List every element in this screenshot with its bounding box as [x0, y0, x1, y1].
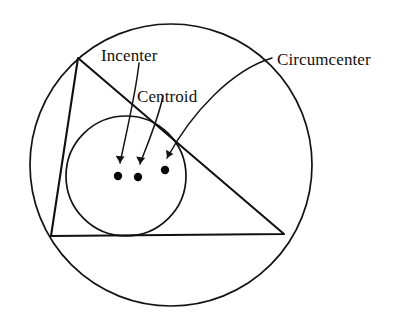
circumcenter-leader-line	[167, 58, 272, 158]
incenter-leader-line	[120, 63, 139, 163]
circumcenter-dot	[161, 166, 169, 174]
figure-canvas	[0, 0, 396, 321]
circumcircle	[30, 24, 312, 306]
centroid-leader-arrowhead	[136, 157, 145, 164]
centroid-leader-line	[140, 96, 163, 164]
triangle-outline	[51, 58, 284, 236]
incenter-dot	[114, 172, 122, 180]
centroid-dot	[134, 173, 142, 181]
centroid-label: Centroid	[137, 88, 197, 105]
circumcenter-label: Circumcenter	[277, 51, 371, 68]
triangle-centers-figure: Incenter Centroid Circumcenter	[0, 0, 396, 321]
incenter-leader-arrowhead	[116, 156, 125, 163]
incenter-label: Incenter	[101, 47, 157, 64]
circumcenter-leader-arrowhead	[166, 150, 173, 158]
